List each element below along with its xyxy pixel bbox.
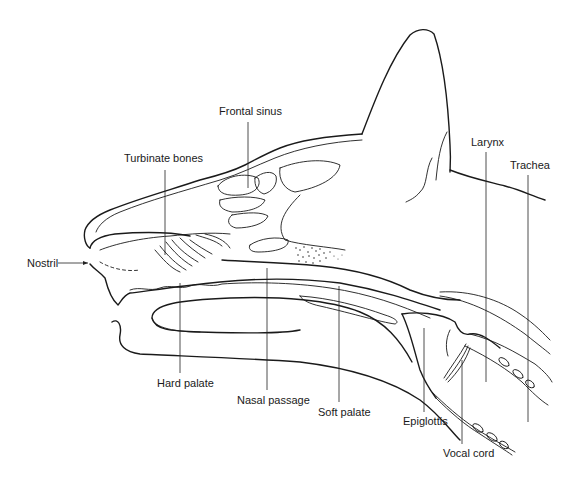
frontal-sinus-chamber-2 [255,172,277,194]
sinus-chamber-lower [249,238,288,252]
label-hard-palate: Hard palate [157,378,214,389]
tongue-shape [152,298,412,362]
frontal-sinus-chamber-5 [229,213,268,228]
trachea-lower-wall [465,346,548,405]
label-nasal-passage: Nasal passage [237,395,310,406]
label-larynx: Larynx [471,137,504,148]
vocal-cord-shape [444,344,470,382]
frontal-sinus-chamber-1 [218,175,259,195]
ear-inner-fold [406,132,447,202]
label-nostril: Nostril [27,258,58,269]
label-frontal-sinus: Frontal sinus [219,106,282,117]
anatomy-diagram [0,0,576,490]
larynx-cartilage [402,313,500,348]
upper-jaw-outline [90,264,440,310]
hard-palate-shape [130,283,430,318]
neck-dorsal-line [450,170,545,200]
label-trachea: Trachea [510,160,550,171]
frontal-sinus-chamber-4 [220,197,266,212]
cranial-cavity-edge [281,195,345,250]
label-turbinate-bones: Turbinate bones [124,153,203,164]
trachea-upper-wall [470,334,552,382]
nostril-arrowhead [83,261,88,265]
label-vocal-cord: Vocal cord [443,448,494,459]
snout-upper-outline [90,233,190,248]
label-soft-palate: Soft palate [318,407,371,418]
nasal-floor-vestibule [100,262,140,271]
tongue-base [152,318,200,332]
larynx-inner [446,330,450,356]
frontal-sinus-chamber-3 [280,161,340,192]
ear-outline [362,30,450,172]
turbinate-bones-shape [155,234,230,272]
epiglottis-shape [402,314,436,398]
label-epiglottis: Epiglottis [403,416,448,427]
